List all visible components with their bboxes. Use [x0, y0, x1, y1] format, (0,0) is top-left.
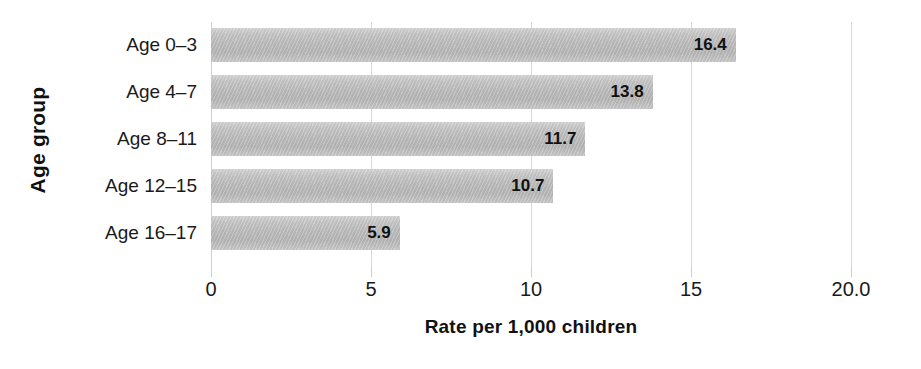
bar[interactable]: 10.7: [211, 169, 553, 203]
plot-area: 16.413.811.710.75.9: [211, 22, 851, 268]
bar-row[interactable]: 10.7: [211, 169, 553, 203]
x-tick-label: 15: [680, 278, 702, 301]
category-label: Age 12–15: [61, 169, 211, 203]
bar[interactable]: 11.7: [211, 122, 585, 156]
x-axis-title: Rate per 1,000 children: [211, 316, 851, 338]
bar-value-label: 13.8: [611, 75, 644, 109]
bar-chart: Age group Age 0–3Age 4–7Age 8–11Age 12–1…: [0, 0, 921, 369]
bar-row[interactable]: 13.8: [211, 75, 653, 109]
bar-row[interactable]: 16.4: [211, 28, 736, 62]
x-tick-mark: [691, 268, 692, 277]
gridline: [851, 22, 852, 268]
bar-value-label: 10.7: [511, 169, 544, 203]
category-label: Age 16–17: [61, 216, 211, 250]
bar-row[interactable]: 11.7: [211, 122, 585, 156]
x-tick-mark: [211, 268, 212, 277]
category-label-group: Age 0–3Age 4–7Age 8–11Age 12–15Age 16–17: [46, 22, 211, 268]
x-tick-label: 10: [520, 278, 542, 301]
bar[interactable]: 13.8: [211, 75, 653, 109]
x-tick-label: 20.0: [832, 278, 871, 301]
x-tick-label: 0: [205, 278, 216, 301]
x-tick-mark: [851, 268, 852, 277]
x-tick-label: 5: [365, 278, 376, 301]
bar-value-label: 16.4: [694, 28, 727, 62]
category-label: Age 4–7: [61, 75, 211, 109]
x-tick-mark: [371, 268, 372, 277]
category-label: Age 0–3: [61, 28, 211, 62]
category-label: Age 8–11: [61, 122, 211, 156]
bar-value-label: 11.7: [544, 122, 576, 156]
bar-value-label: 5.9: [367, 216, 391, 250]
x-tick-mark: [531, 268, 532, 277]
bar[interactable]: 16.4: [211, 28, 736, 62]
x-axis-ticks: 05101520.0: [211, 268, 851, 308]
bar-row[interactable]: 5.9: [211, 216, 400, 250]
bar[interactable]: 5.9: [211, 216, 400, 250]
